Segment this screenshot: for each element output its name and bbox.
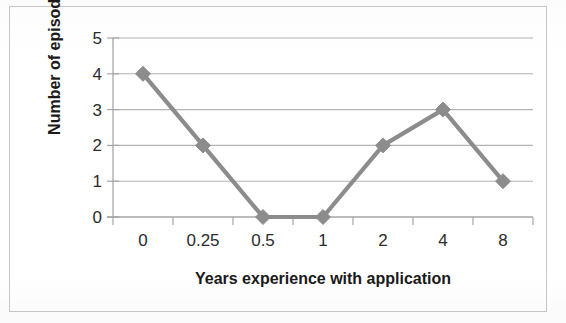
y-tick-label-1: 1	[80, 173, 102, 190]
x-tick-label-2: 2	[378, 232, 387, 249]
line-chart: 5 4 3 2 1 0 0 0.25 0.5 1 2 4 8 Number of…	[0, 0, 566, 323]
y-tick-label-4: 4	[80, 66, 102, 83]
x-tick-label-4: 4	[438, 232, 447, 249]
x-tick-label-1: 1	[318, 232, 327, 249]
y-tick-label-0: 0	[80, 209, 102, 226]
y-axis-title: Number of episodes	[42, 0, 68, 153]
gridline-group	[113, 38, 533, 181]
x-axis-title: Years experience with application	[113, 270, 533, 288]
y-tick-label-5: 5	[80, 30, 102, 47]
y-tick-label-3: 3	[80, 102, 102, 119]
x-tick-label-8: 8	[498, 232, 507, 249]
chart-figure: 5 4 3 2 1 0 0 0.25 0.5 1 2 4 8 Number of…	[0, 0, 566, 323]
x-tick-label-0-5: 0.5	[251, 232, 275, 249]
y-tick-label-2: 2	[80, 137, 102, 154]
x-tick-label-0-25: 0.25	[186, 232, 219, 249]
x-tick-label-0: 0	[138, 232, 147, 249]
